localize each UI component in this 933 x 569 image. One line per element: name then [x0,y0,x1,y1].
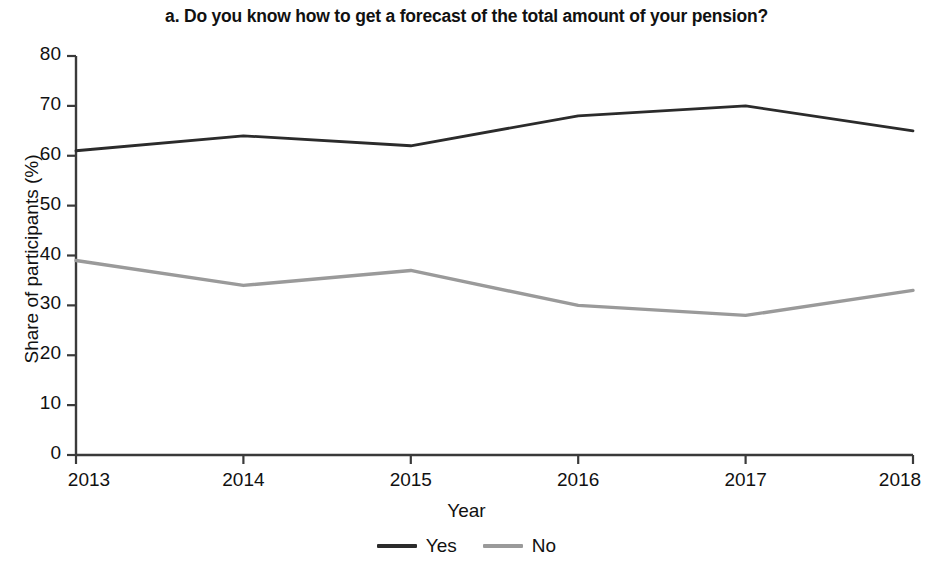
y-tick-label: 80 [5,43,61,65]
y-tick-label: 20 [5,342,61,364]
y-tick-label: 70 [5,93,61,115]
legend-item-no[interactable]: No [483,536,556,555]
legend-item-yes[interactable]: Yes [377,536,457,555]
series-line-yes [76,106,913,151]
x-tick-label: 2014 [198,469,288,491]
y-tick-label: 60 [5,143,61,165]
y-tick-label: 0 [5,442,61,464]
x-tick-label: 2015 [366,469,456,491]
legend-swatch-icon [483,544,523,548]
chart-figure: a. Do you know how to get a forecast of … [0,0,933,569]
legend-label: No [532,536,556,555]
x-tick-label: 2013 [44,469,134,491]
legend-label: Yes [426,536,457,555]
series-line-no [76,260,913,315]
y-tick-label: 30 [5,292,61,314]
legend-swatch-icon [377,544,417,548]
x-tick-label: 2018 [855,469,933,491]
x-tick-label: 2017 [701,469,791,491]
y-tick-label: 40 [5,243,61,265]
plot-area [0,0,933,569]
y-tick-label: 10 [5,392,61,414]
y-tick-label: 50 [5,193,61,215]
chart-legend: YesNo [0,536,933,555]
x-tick-label: 2016 [533,469,623,491]
